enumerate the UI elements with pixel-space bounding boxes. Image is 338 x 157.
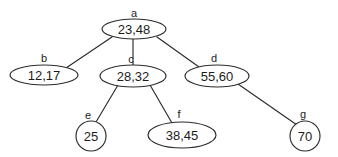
edge-c-e xyxy=(96,85,118,122)
tree-diagram-canvas: 23,48 a 12,17 b 28,32 c 55,60 d 25 e 38,… xyxy=(0,0,338,157)
node-f[interactable]: 38,45 f xyxy=(148,108,216,148)
node-e-value: 25 xyxy=(84,129,98,144)
node-d[interactable]: 55,60 d xyxy=(185,52,249,87)
node-b-label: b xyxy=(41,52,47,64)
edge-a-d xyxy=(157,37,199,67)
node-d-value: 55,60 xyxy=(201,69,234,84)
node-a-label: a xyxy=(131,7,138,19)
edge-c-f xyxy=(150,85,172,123)
node-c-label: c xyxy=(128,53,134,65)
node-d-label: d xyxy=(211,52,217,64)
node-b[interactable]: 12,17 b xyxy=(10,52,78,85)
edge-d-g xyxy=(238,84,297,125)
edge-a-b xyxy=(66,37,112,68)
node-f-value: 38,45 xyxy=(166,128,199,143)
node-e[interactable]: 25 e xyxy=(76,109,106,151)
tree-diagram-svg: 23,48 a 12,17 b 28,32 c 55,60 d 25 e 38,… xyxy=(0,0,338,157)
node-g-label: g xyxy=(300,108,306,120)
node-g[interactable]: 70 g xyxy=(290,108,320,151)
node-c[interactable]: 28,32 c xyxy=(100,53,166,87)
node-f-label: f xyxy=(177,108,181,120)
node-a-value: 23,48 xyxy=(118,22,151,37)
node-a[interactable]: 23,48 a xyxy=(102,7,166,39)
node-c-value: 28,32 xyxy=(117,69,150,84)
edge-group xyxy=(66,37,297,125)
node-b-value: 12,17 xyxy=(28,68,61,83)
node-e-label: e xyxy=(85,109,91,121)
node-g-value: 70 xyxy=(298,129,312,144)
